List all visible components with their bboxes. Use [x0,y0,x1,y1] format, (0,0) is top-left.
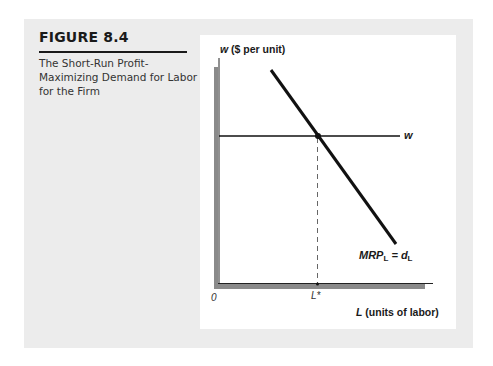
l-star-tick [316,283,319,286]
y-axis-unit: ($ per unit) [228,43,285,55]
x-axis-unit: (units of labor) [362,306,438,318]
mrp-demand-curve [271,70,396,244]
x-axis-label: L (units of labor) [356,306,439,318]
l-star-label: L* [311,290,320,301]
equilibrium-point [315,133,321,139]
y-axis-var: w [220,43,228,55]
y-axis-shadow [214,67,218,285]
wage-line-label: w [404,129,413,141]
x-axis-shadow [214,284,425,289]
origin-label: 0 [211,292,217,303]
mrp-sub2: L [408,254,413,263]
mrp-main: MRP [359,249,383,261]
mrp-curve-label: MRPL = dL [359,249,413,263]
y-axis-label: w ($ per unit) [220,43,285,55]
mrp-eq: = d [388,249,407,261]
